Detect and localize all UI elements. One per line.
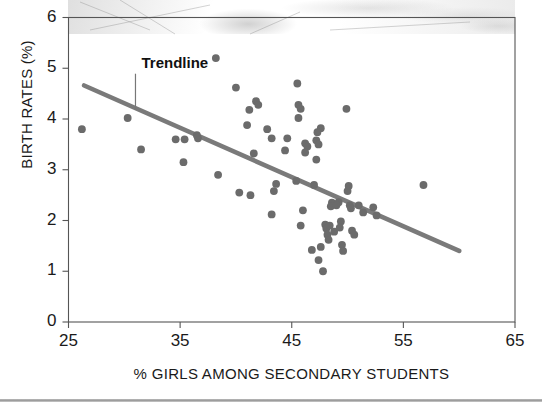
trendline-annotation-label: Trendline: [141, 54, 208, 71]
scatter-points: [78, 54, 427, 275]
plot-frame: [69, 18, 516, 323]
bottom-divider-rule: [0, 399, 542, 402]
scatter-chart-figure: 0123456 2535455565 BIRTH RATES (%) % GIR…: [0, 0, 542, 404]
y-tick-label-6: 6: [29, 7, 57, 27]
axis-ticks: [63, 18, 516, 329]
y-tick-label-0: 0: [29, 311, 57, 331]
x-tick-label-25: 25: [49, 331, 89, 351]
y-tick-label-2: 2: [29, 210, 57, 230]
x-tick-label-35: 35: [160, 331, 200, 351]
x-tick-label-55: 55: [383, 331, 423, 351]
y-axis-title: BIRTH RATES (%): [18, 25, 35, 185]
trendline: [84, 86, 459, 251]
x-axis-title: % GIRLS AMONG SECONDARY STUDENTS: [68, 365, 515, 382]
x-tick-label-65: 65: [495, 331, 535, 351]
y-tick-label-1: 1: [29, 260, 57, 280]
x-tick-label-45: 45: [272, 331, 312, 351]
